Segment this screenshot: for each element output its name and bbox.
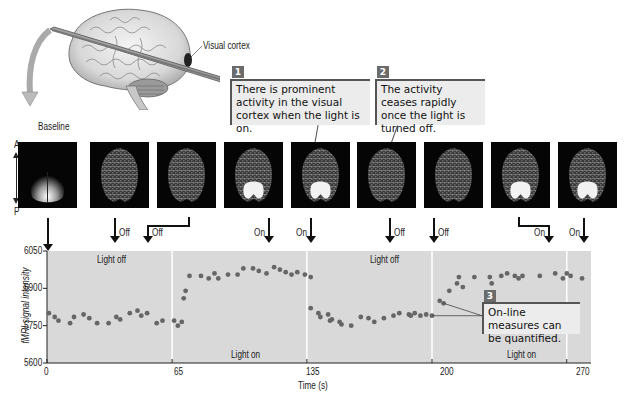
region-label-light-on-1: Light on <box>231 349 260 360</box>
scan-condition-label: On <box>534 227 545 238</box>
callout-2-number: 2 <box>377 66 389 78</box>
scan-condition-label: Off <box>152 227 163 238</box>
fmri-scan-7 <box>424 142 483 208</box>
arrow-down-icon <box>310 218 312 237</box>
arrow-down-icon <box>389 218 391 237</box>
arrow-down-icon <box>147 226 149 237</box>
x-tick-65: 65 <box>174 366 183 377</box>
arrow-down-icon <box>114 218 116 237</box>
scan-condition-label: Off <box>394 227 405 238</box>
bent-arrow-connector <box>188 217 190 226</box>
arrow-down-icon <box>433 218 435 237</box>
arrow-down-icon <box>583 218 585 237</box>
fmri-scan-3 <box>157 142 216 208</box>
scan-condition-label: On <box>569 227 580 238</box>
brain-icon <box>20 0 220 110</box>
brain-illustration <box>20 0 220 110</box>
scan-condition-label: On <box>296 227 307 238</box>
x-tick-200: 200 <box>440 366 454 377</box>
x-tick-0: 0 <box>44 366 49 377</box>
fmri-scan-9 <box>558 142 617 208</box>
region-label-light-on-2: Light on <box>507 349 536 360</box>
orientation-arrow <box>16 155 17 200</box>
callout-3: On-line measures can be quantified. <box>482 302 580 334</box>
baseline-label: Baseline <box>38 121 69 132</box>
bent-arrow-connector <box>518 217 520 226</box>
scan-condition-label: On <box>254 227 265 238</box>
callout-2: The activity ceases rapidly once the lig… <box>375 79 485 125</box>
fmri-scan-1 <box>18 142 77 208</box>
y-axis-label: fMRI signal intensity <box>20 259 31 353</box>
callout-3-number: 3 <box>484 290 496 302</box>
arrow-down-icon <box>268 218 270 237</box>
callout-1: There is prominent activity in the visua… <box>230 79 370 125</box>
x-tick-135: 135 <box>306 366 320 377</box>
arrow-down-icon <box>47 218 49 245</box>
fmri-scan-4 <box>224 142 283 208</box>
callout-1-leader <box>314 125 318 143</box>
visual-cortex-label: Visual cortex <box>203 40 250 51</box>
fmri-scan-8 <box>491 142 550 208</box>
x-axis-label: Time (s) <box>298 380 328 391</box>
fmri-scan-2 <box>90 142 149 208</box>
y-tick-6050: 6050 <box>24 245 42 256</box>
fmri-scan-6 <box>357 142 416 208</box>
callout-1-number: 1 <box>232 66 244 78</box>
fmri-scan-5 <box>291 142 350 208</box>
x-tick-270: 270 <box>576 366 590 377</box>
region-label-light-off-2: Light off <box>370 254 399 265</box>
region-label-light-off-1: Light off <box>97 254 126 265</box>
arrow-down-icon <box>548 226 550 237</box>
scan-condition-label: Off <box>119 227 130 238</box>
y-tick-5750: 5750 <box>24 320 42 331</box>
y-tick-5900: 5900 <box>24 282 42 293</box>
y-tick-5600: 5600 <box>24 357 42 368</box>
scan-condition-label: Off <box>438 227 449 238</box>
